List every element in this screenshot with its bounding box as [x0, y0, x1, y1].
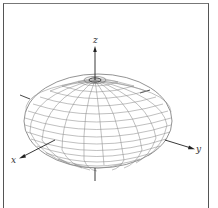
ellipsoid-mesh — [24, 74, 172, 171]
x-axis-arrow-icon — [19, 154, 26, 159]
y-axis-label: y — [195, 144, 202, 154]
z-axis-label: z — [92, 35, 98, 45]
y-axis-arrow-icon — [188, 146, 195, 150]
ellipsoid-diagram: z x y — [0, 0, 218, 208]
x-axis-back — [20, 95, 30, 99]
z-axis-arrow-icon — [93, 46, 97, 52]
x-axis-label: x — [11, 155, 16, 165]
y-axis — [165, 140, 191, 148]
